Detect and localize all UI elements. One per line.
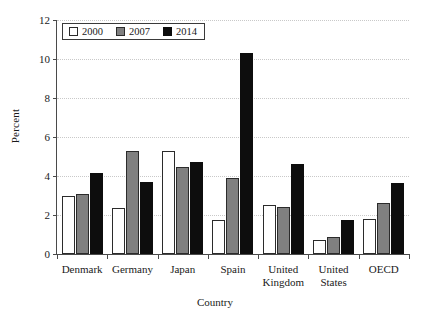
bar-2014-denmark <box>90 173 103 254</box>
legend-swatch-2000 <box>69 27 78 36</box>
x-tick-label-japan: Japan <box>170 263 195 276</box>
legend-item-2007: 2007 <box>116 26 150 37</box>
bar-groups: DenmarkGermanyJapanSpainUnitedKingdomUni… <box>57 20 409 254</box>
x-tick-mark-0 <box>57 254 58 259</box>
legend-item-2014: 2014 <box>163 26 197 37</box>
bar-2000-denmark <box>62 196 75 255</box>
x-tick-mark-4 <box>258 254 259 259</box>
y-tick-label-2: 2 <box>45 209 51 221</box>
x-tick-mark-end <box>409 254 410 259</box>
bar-group-spain: Spain <box>208 20 258 254</box>
x-tick-mark-1 <box>107 254 108 259</box>
legend-item-2000: 2000 <box>69 26 103 37</box>
bar-2000-spain <box>212 220 225 254</box>
x-tick-mark-3 <box>208 254 209 259</box>
bar-chart: Percent 024681012 DenmarkGermanyJapanSpa… <box>0 0 430 326</box>
y-tick-label-0: 0 <box>45 248 51 260</box>
y-axis-title: Percent <box>9 81 21 171</box>
bar-group-denmark: Denmark <box>57 20 107 254</box>
bar-group-japan: Japan <box>158 20 208 254</box>
bar-2007-united-states <box>327 237 340 254</box>
bar-2014-united-states <box>341 220 354 254</box>
x-tick-label-united-states: UnitedStates <box>319 263 349 288</box>
x-tick-mark-2 <box>158 254 159 259</box>
bar-2007-united-kingdom <box>277 207 290 254</box>
bar-group-united-kingdom: UnitedKingdom <box>258 20 308 254</box>
bar-2007-oecd <box>377 203 390 254</box>
x-axis-title: Country <box>0 296 430 308</box>
x-tick-mark-6 <box>359 254 360 259</box>
bar-2014-oecd <box>391 183 404 254</box>
plot-area: 024681012 DenmarkGermanyJapanSpainUnited… <box>56 20 409 255</box>
bar-2007-denmark <box>76 194 89 254</box>
bar-2000-oecd <box>363 219 376 254</box>
y-tick-label-12: 12 <box>39 14 50 26</box>
bar-2007-spain <box>226 178 239 254</box>
bar-2014-spain <box>240 53 253 254</box>
bar-group-oecd: OECD <box>359 20 409 254</box>
bar-2007-japan <box>176 167 189 254</box>
x-tick-label-oecd: OECD <box>369 263 399 276</box>
y-tick-label-6: 6 <box>45 131 51 143</box>
y-tick-label-8: 8 <box>45 92 51 104</box>
x-tick-label-germany: Germany <box>112 263 153 276</box>
bar-2014-united-kingdom <box>291 164 304 254</box>
bar-group-germany: Germany <box>107 20 157 254</box>
y-tick-label-10: 10 <box>39 53 50 65</box>
x-tick-label-spain: Spain <box>220 263 245 276</box>
bar-2000-japan <box>162 151 175 254</box>
bar-group-united-states: UnitedStates <box>308 20 358 254</box>
legend-label-2014: 2014 <box>176 26 197 37</box>
bar-2007-germany <box>126 151 139 254</box>
legend-swatch-2014 <box>163 27 172 36</box>
x-tick-label-denmark: Denmark <box>62 263 103 276</box>
legend-swatch-2007 <box>116 27 125 36</box>
legend-label-2000: 2000 <box>82 26 103 37</box>
bar-2000-germany <box>112 208 125 254</box>
y-tick-label-4: 4 <box>45 170 51 182</box>
bar-2000-united-states <box>313 240 326 254</box>
legend: 2000 2007 2014 <box>62 23 205 40</box>
bar-2014-japan <box>190 162 203 254</box>
x-tick-label-united-kingdom: UnitedKingdom <box>262 263 304 288</box>
legend-label-2007: 2007 <box>129 26 150 37</box>
bar-2000-united-kingdom <box>263 205 276 254</box>
x-tick-mark-5 <box>308 254 309 259</box>
bar-2014-germany <box>140 182 153 254</box>
